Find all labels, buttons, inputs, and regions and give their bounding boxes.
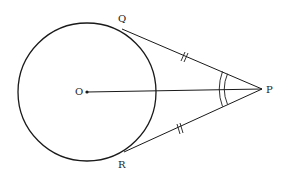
angle-arcs-p bbox=[219, 72, 227, 107]
center-dot bbox=[85, 90, 88, 93]
label-p: P bbox=[266, 84, 273, 95]
tangent-pr bbox=[124, 89, 262, 152]
tangent-pq bbox=[122, 29, 262, 89]
tangent-diagram: O P Q R bbox=[0, 0, 288, 179]
tick-marks-pr bbox=[177, 123, 183, 134]
label-o: O bbox=[75, 86, 83, 97]
segment-op bbox=[87, 89, 262, 92]
label-q: Q bbox=[118, 13, 126, 24]
label-r: R bbox=[118, 159, 126, 170]
